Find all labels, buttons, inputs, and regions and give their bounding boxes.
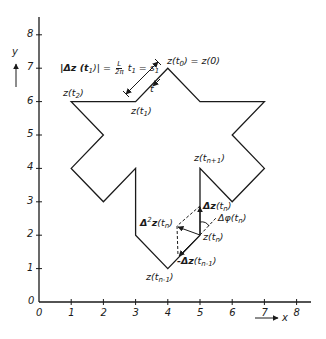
- delta2-z-vector: [178, 227, 200, 235]
- diagram-canvas: 012345678 12345678 y x 0 |Δz (t1)| = L2π…: [0, 0, 326, 339]
- label-z-t2: z(t2): [63, 88, 84, 100]
- delta-phi-arc: [200, 222, 209, 226]
- label-delta-phi-tn: Δφ(tn): [218, 213, 246, 225]
- x-tick-label: 4: [165, 308, 171, 318]
- origin-label-y: 0: [28, 296, 34, 306]
- x-tick-label: 5: [197, 308, 203, 318]
- star-polygon: [71, 68, 264, 268]
- dashed-parallelogram-side: [177, 226, 178, 256]
- label-z-t1: z(t1): [131, 106, 152, 118]
- y-tick-label: 6: [27, 96, 33, 106]
- y-tick-label: 3: [27, 196, 33, 206]
- y-tick-label: 5: [27, 129, 33, 139]
- x-tick-label: 6: [229, 308, 235, 318]
- x-tick-label: 2: [100, 308, 106, 318]
- label-z-tn: z(tn): [203, 232, 224, 244]
- x-axis-label: x: [282, 313, 288, 323]
- x-tick-label: 0: [36, 308, 42, 318]
- label-z-tn-minus-1: z(tn-1): [146, 272, 174, 284]
- x-tick-label: 7: [261, 308, 267, 318]
- y-tick-label: 2: [27, 229, 33, 239]
- fraction: L2π: [115, 61, 124, 76]
- label-neg-delta-z-tn-minus-1: -Δz(tn-1): [177, 256, 216, 268]
- y-tick-label: 7: [27, 62, 33, 72]
- dashed-parallelogram-top: [177, 206, 200, 226]
- x-tick-label: 1: [68, 308, 74, 318]
- y-tick-label: 1: [27, 263, 33, 273]
- x-tick-label: 8: [294, 308, 300, 318]
- label-delta2-z-tn: Δ2z(tn): [140, 217, 173, 230]
- arc-length-formula: |Δz (t1)| = L2π t1 = s1: [60, 61, 159, 76]
- neg-delta-z-prev-vector: [179, 235, 200, 256]
- x-tick-label: 3: [133, 308, 139, 318]
- label-t: t: [150, 84, 154, 94]
- label-z-t0: z(t0) = z(0): [167, 56, 220, 68]
- label-z-tn-plus-1: z(tn+1): [194, 153, 225, 165]
- diagram-svg: [0, 0, 326, 339]
- y-tick-label: 8: [27, 29, 33, 39]
- y-tick-label: 4: [27, 162, 33, 172]
- y-axis-label: y: [12, 47, 18, 57]
